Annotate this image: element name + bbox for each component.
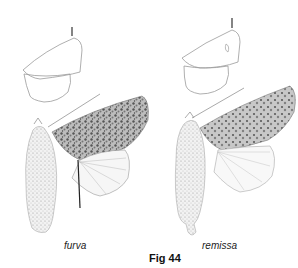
- figure-title: Fig 44: [149, 252, 181, 264]
- furva-label: furva: [64, 240, 86, 251]
- remissa-label: remissa: [202, 240, 237, 251]
- furva-moth: [26, 94, 149, 233]
- remissa-moth: [175, 86, 295, 235]
- furva-wing-outline: [23, 27, 82, 102]
- remissa-wing-outline: [182, 18, 240, 94]
- figure-illustration: [0, 0, 298, 268]
